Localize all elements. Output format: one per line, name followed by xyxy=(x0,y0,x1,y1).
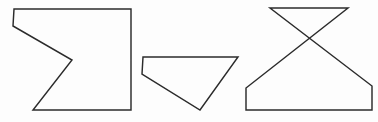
drawing-canvas xyxy=(0,0,378,122)
polygon-figure xyxy=(0,0,378,122)
